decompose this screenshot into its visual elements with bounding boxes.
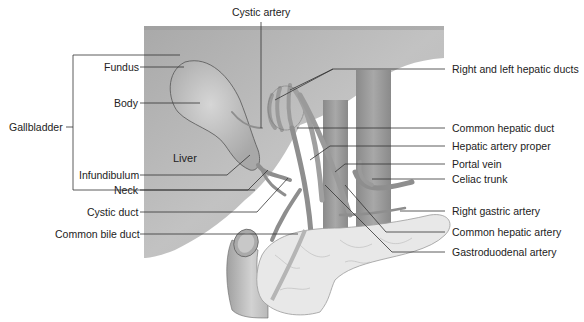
label-fundus: Fundus (104, 61, 139, 73)
label-cystic-duct: Cystic duct (87, 206, 138, 218)
label-hepatic-artery-proper: Hepatic artery proper (452, 140, 551, 152)
label-portal-vein: Portal vein (452, 158, 502, 170)
label-gastroduodenal-artery: Gastroduodenal artery (452, 246, 556, 258)
label-common-hepatic-duct: Common hepatic duct (452, 122, 554, 134)
label-body: Body (114, 97, 138, 109)
label-infundibulum: Infundibulum (79, 169, 139, 181)
label-gallbladder: Gallbladder (9, 121, 63, 133)
pancreas (257, 215, 450, 315)
label-liver: Liver (173, 152, 197, 164)
label-celiac-trunk: Celiac trunk (452, 173, 507, 185)
label-common-hepatic-artery: Common hepatic artery (452, 226, 561, 238)
label-right-gastric-artery: Right gastric artery (452, 205, 540, 217)
label-common-bile-duct: Common bile duct (55, 228, 140, 240)
label-cystic-artery: Cystic artery (232, 6, 290, 18)
label-neck: Neck (114, 184, 138, 196)
label-right-left-hepatic-ducts: Right and left hepatic ducts (452, 63, 579, 75)
